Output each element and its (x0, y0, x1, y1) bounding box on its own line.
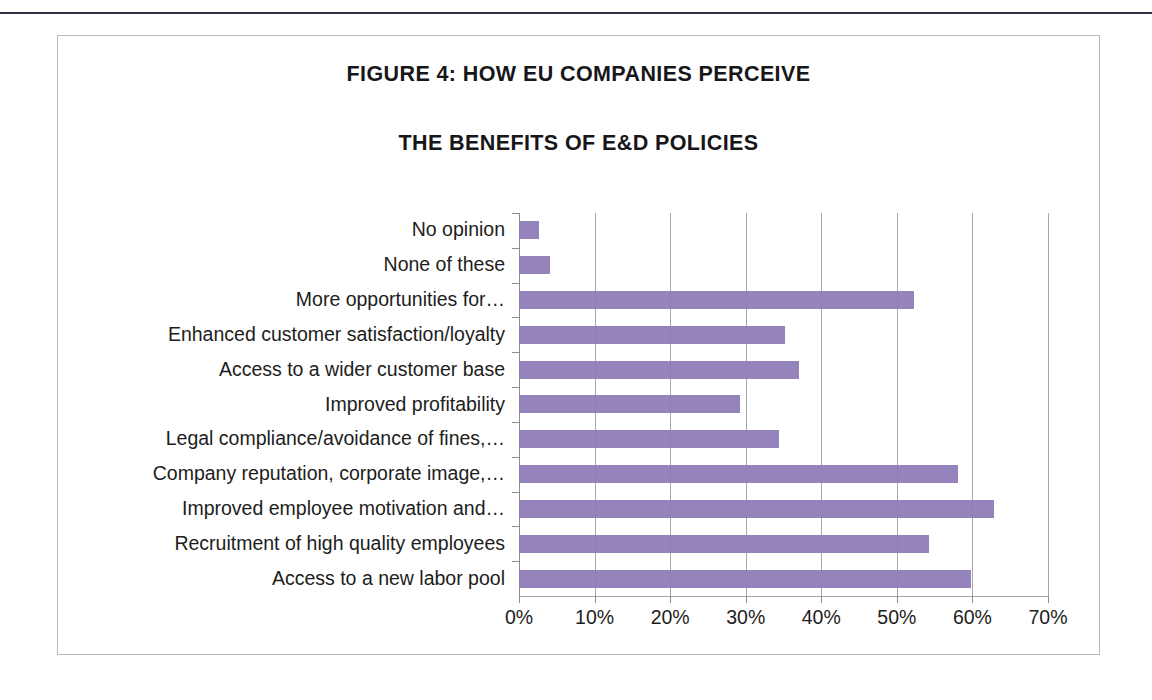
x-axis-tick (670, 596, 671, 603)
x-axis-tick (746, 596, 747, 603)
bar-row (519, 283, 1048, 318)
bar[interactable] (519, 465, 958, 483)
y-axis-tick (512, 561, 519, 562)
x-axis-tick (897, 596, 898, 603)
bar[interactable] (519, 500, 994, 518)
bar-row (519, 352, 1048, 387)
x-axis-tick (821, 596, 822, 603)
y-axis-tick (512, 422, 519, 423)
x-axis-tick-label: 0% (505, 608, 533, 628)
bar[interactable] (519, 430, 779, 448)
category-label: Recruitment of high quality employees (174, 534, 505, 554)
gridline-70pct (1048, 213, 1049, 596)
y-axis-tick (512, 213, 519, 214)
figure-title-line-2: THE BENEFITS OF E&D POLICIES (58, 131, 1099, 156)
bar-row (519, 387, 1048, 422)
y-axis-tick (512, 492, 519, 493)
x-axis-tick (972, 596, 973, 603)
x-axis-tick (595, 596, 596, 603)
y-axis-tick (512, 526, 519, 527)
category-label: Legal compliance/avoidance of fines,… (166, 429, 505, 449)
figure-title: FIGURE 4: HOW EU COMPANIES PERCEIVE THE … (58, 62, 1099, 156)
category-label: Enhanced customer satisfaction/loyalty (168, 325, 505, 345)
bar[interactable] (519, 570, 971, 588)
bar-row (519, 422, 1048, 457)
bar[interactable] (519, 535, 929, 553)
x-axis-ticks (519, 596, 1048, 606)
x-axis-tick-label: 20% (651, 608, 690, 628)
plot-area (519, 213, 1048, 596)
category-label: None of these (384, 255, 505, 275)
x-axis-tick-label: 60% (953, 608, 992, 628)
bar-row (519, 317, 1048, 352)
category-label: Company reputation, corporate image,… (153, 464, 505, 484)
bar[interactable] (519, 395, 740, 413)
x-axis-tick-labels: 0%10%20%30%40%50%60%70% (519, 608, 1048, 638)
bar[interactable] (519, 361, 799, 379)
y-axis-tick (512, 457, 519, 458)
bar[interactable] (519, 291, 914, 309)
bar-row (519, 457, 1048, 492)
category-label: Improved profitability (325, 395, 505, 415)
bar-row (519, 492, 1048, 527)
category-label: More opportunities for… (296, 290, 505, 310)
x-axis-tick-label: 70% (1028, 608, 1067, 628)
bar[interactable] (519, 256, 550, 274)
y-axis-tick (512, 352, 519, 353)
bar-row (519, 213, 1048, 248)
y-axis-tick (512, 248, 519, 249)
y-axis-tick (512, 317, 519, 318)
x-axis-tick-label: 50% (877, 608, 916, 628)
figure-frame: FIGURE 4: HOW EU COMPANIES PERCEIVE THE … (57, 35, 1100, 655)
y-axis-tick (512, 283, 519, 284)
page-horizontal-rule (0, 12, 1152, 14)
x-axis-tick-label: 30% (726, 608, 765, 628)
y-axis-tick (512, 387, 519, 388)
x-axis-tick-label: 10% (575, 608, 614, 628)
category-axis-labels: No opinionNone of theseMore opportunitie… (58, 213, 513, 596)
bar-series (519, 213, 1048, 596)
bar-row (519, 526, 1048, 561)
bar-row (519, 561, 1048, 596)
x-axis-tick (1048, 596, 1049, 603)
category-label: Access to a new labor pool (272, 569, 505, 589)
bar-row (519, 248, 1048, 283)
category-label: Improved employee motivation and… (182, 499, 505, 519)
figure-title-line-1: FIGURE 4: HOW EU COMPANIES PERCEIVE (58, 62, 1099, 87)
bar[interactable] (519, 221, 539, 239)
x-axis-tick-label: 40% (802, 608, 841, 628)
bar[interactable] (519, 326, 785, 344)
category-label: Access to a wider customer base (219, 360, 505, 380)
x-axis-tick (519, 596, 520, 603)
category-label: No opinion (412, 220, 505, 240)
